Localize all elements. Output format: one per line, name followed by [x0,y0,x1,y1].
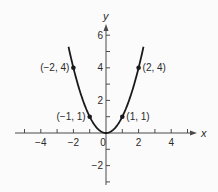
axes [15,24,197,185]
point-label: (−2, 4) [40,62,69,73]
x-axis-label: x [200,127,207,139]
point-label: (1, 1) [126,111,149,122]
x-tick-label: 2 [136,137,142,148]
point-label: (−1, 1) [57,111,86,122]
point-marker [71,66,76,71]
y-tick-label: 2 [97,95,103,106]
x-tick-label: 4 [168,137,174,148]
x-tick-label: 0 [100,137,106,148]
y-tick-label: −2 [92,160,104,171]
y-tick-label: 6 [97,30,103,41]
x-tick-label: −2 [68,137,80,148]
point-marker [120,114,125,119]
y-axis-arrow-icon [104,24,109,31]
point-marker [136,66,141,71]
y-tick-label: 4 [97,62,103,73]
parabola-chart: −4−2024642−2 (−2, 4)(−1, 1)(1, 1)(2, 4) … [0,0,218,192]
labeled-points: (−2, 4)(−1, 1)(1, 1)(2, 4) [40,62,166,122]
y-axis-label: y [102,10,110,22]
point-label: (2, 4) [143,62,166,73]
point-marker [87,114,92,119]
x-axis-arrow-icon [190,131,197,136]
x-tick-label: −4 [35,137,47,148]
tick-labels: −4−2024642−2 [35,30,174,171]
